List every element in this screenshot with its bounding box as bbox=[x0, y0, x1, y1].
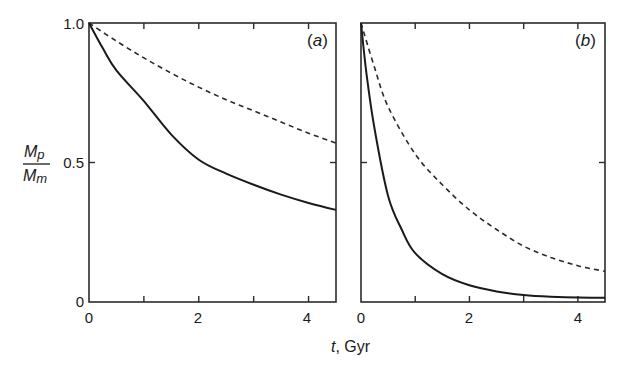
y-axis-label: Mp Mm bbox=[23, 143, 50, 186]
panel-a: (a) 1.0 0.5 0 0 2 4 bbox=[63, 15, 336, 326]
panel-a-frame bbox=[89, 23, 336, 302]
y-axis-numerator: Mp bbox=[24, 143, 45, 162]
panel-b-dashed-curve bbox=[361, 23, 605, 271]
panel-a-solid-curve bbox=[89, 23, 336, 210]
panel-b-solid-curve bbox=[361, 23, 605, 298]
panel-a-xtick-label-4: 4 bbox=[303, 309, 311, 326]
y-axis-denominator: Mm bbox=[23, 167, 47, 186]
panel-a-xtick-label-0: 0 bbox=[85, 309, 93, 326]
figure: (a) 1.0 0.5 0 0 2 4 (b) 0 2 4 Mp Mm t, G… bbox=[0, 0, 617, 373]
panel-b-xtick-label-4: 4 bbox=[574, 309, 582, 326]
panel-a-xtick-label-2: 2 bbox=[194, 309, 202, 326]
panel-b-frame bbox=[361, 23, 605, 302]
x-axis-label: t, Gyr bbox=[331, 338, 371, 355]
panel-b-xtick-label-0: 0 bbox=[357, 309, 365, 326]
panel-a-label: (a) bbox=[307, 31, 328, 50]
panel-b-ticks bbox=[361, 23, 605, 302]
panel-a-ticks bbox=[89, 23, 336, 302]
panel-b-xtick-label-2: 2 bbox=[465, 309, 473, 326]
ytick-label-1: 1.0 bbox=[63, 15, 84, 32]
panel-b-label: (b) bbox=[575, 31, 596, 50]
ytick-label-0: 0 bbox=[76, 293, 84, 310]
ytick-label-0-5: 0.5 bbox=[63, 154, 84, 171]
panel-b: (b) 0 2 4 bbox=[357, 23, 605, 326]
